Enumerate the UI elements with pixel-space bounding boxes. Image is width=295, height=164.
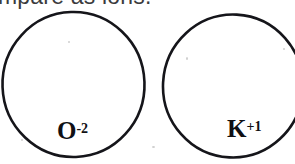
potassium-symbol: K: [227, 115, 246, 142]
scan-speckle: [152, 146, 155, 148]
oxide-charge: -2: [76, 121, 88, 136]
potassium-charge: +1: [246, 119, 261, 134]
scan-speckle: [186, 57, 188, 60]
potassium-ion-label: K+1: [227, 116, 261, 141]
scanned-worksheet-page: mpare as ions. O-2 K+1: [0, 0, 295, 164]
oxide-symbol: O: [57, 117, 76, 144]
oxide-ion-label: O-2: [57, 118, 88, 143]
scan-speckle: [21, 139, 23, 141]
scan-speckle: [283, 48, 285, 50]
scan-speckle: [68, 41, 70, 43]
